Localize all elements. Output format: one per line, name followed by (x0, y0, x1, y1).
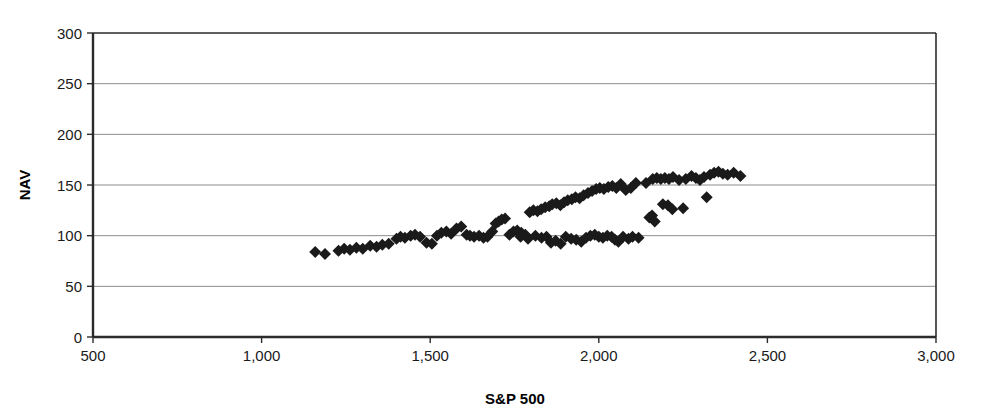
x-tick-label: 2,500 (749, 347, 787, 364)
y-tick-label: 150 (57, 177, 82, 194)
scatter-point (701, 191, 713, 203)
y-tick-label: 50 (65, 278, 82, 295)
scatter-points (309, 166, 746, 260)
x-tick-label: 2,000 (580, 347, 618, 364)
y-tick-label: 250 (57, 75, 82, 92)
gridlines (93, 84, 936, 287)
y-tick-label: 300 (57, 25, 82, 42)
x-axis-title: S&P 500 (485, 390, 545, 407)
x-tick-label: 3,000 (917, 347, 955, 364)
scatter-chart: 050100150200250300 5001,0001,5002,0002,5… (0, 0, 984, 414)
y-axis-title: NAV (16, 170, 33, 201)
y-tick-label: 0 (74, 329, 82, 346)
x-tick-label: 1,500 (411, 347, 449, 364)
y-axis-tick-labels: 050100150200250300 (57, 25, 82, 346)
x-tick-label: 500 (80, 347, 105, 364)
x-tick-label: 1,000 (243, 347, 281, 364)
scatter-point (309, 246, 321, 258)
y-tick-label: 100 (57, 227, 82, 244)
scatter-point (677, 202, 689, 214)
scatter-point (319, 248, 331, 260)
x-axis-tick-labels: 5001,0001,5002,0002,5003,000 (80, 347, 954, 364)
chart-canvas: 050100150200250300 5001,0001,5002,0002,5… (0, 0, 984, 414)
y-tick-label: 200 (57, 126, 82, 143)
